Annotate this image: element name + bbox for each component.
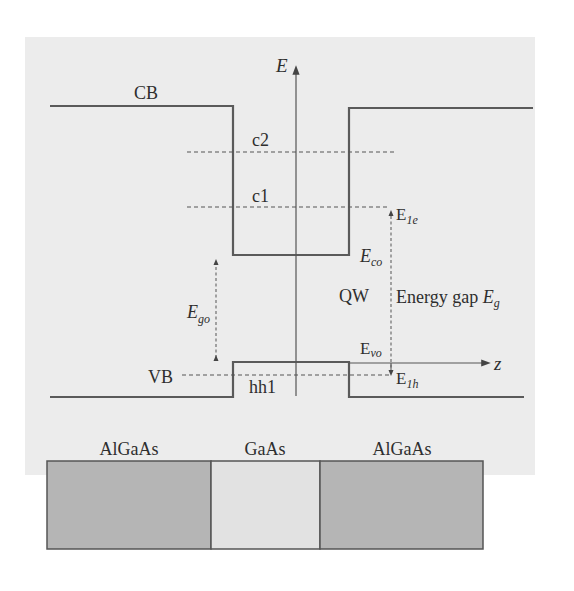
cb-label: CB: [134, 83, 158, 103]
ego-label: Ego: [186, 302, 210, 326]
layer-label-algaas-left: AlGaAs: [100, 439, 159, 459]
layer-algaas-right: [320, 461, 483, 549]
c2-label: c2: [252, 130, 269, 150]
valence-band-line: [50, 362, 524, 397]
position-axis-label: z: [493, 353, 502, 374]
e1e-label: E1e: [396, 205, 418, 227]
band-diagram: E z CB VB QW c2 c1 hh1 E1e Eco Ego Evo E…: [0, 0, 574, 591]
layer-label-gaas: GaAs: [245, 439, 286, 459]
vb-label: VB: [148, 367, 173, 387]
layer-gaas: [211, 461, 320, 549]
eco-label: Eco: [359, 246, 382, 269]
hh1-label: hh1: [249, 377, 276, 397]
e1h-label: E1h: [396, 369, 418, 391]
conduction-band-line: [50, 106, 533, 255]
layer-algaas-left: [47, 461, 211, 549]
c1-label: c1: [252, 186, 269, 206]
energy-axis-label: E: [275, 55, 288, 76]
energy-gap-label: Energy gap Eg: [396, 287, 500, 310]
evo-label: Evo: [360, 339, 382, 360]
layer-label-algaas-right: AlGaAs: [373, 439, 432, 459]
qw-label: QW: [339, 286, 369, 306]
